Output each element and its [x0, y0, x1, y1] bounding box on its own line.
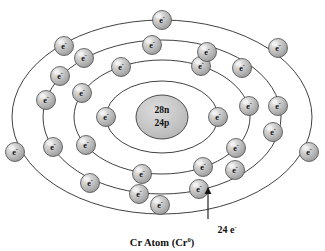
electron-shell3-22: e- — [51, 67, 70, 86]
electron-shell3-18: e- — [233, 59, 252, 78]
electron-shell2-9: e- — [112, 58, 131, 77]
electron-shell3-21: e- — [75, 49, 94, 68]
caption-main-text: Cr Atom (Cr — [130, 237, 188, 249]
electron-shell4-23: e- — [153, 11, 172, 30]
electron-shell3-12: e- — [81, 174, 100, 193]
bohr-model-svg: 28n 24p e-e-e-e-e-e-e-e-e-e-e-e-e-e-e-e-… — [0, 0, 325, 251]
annotation-label: 24 e- — [217, 223, 236, 235]
outer-shell-annotation: 24 e- — [205, 187, 237, 235]
atom-diagram-canvas: 28n 24p e-e-e-e-e-e-e-e-e-e-e-e-e-e-e-e-… — [0, 0, 325, 251]
electron-shell3-16: e- — [264, 123, 283, 142]
annotation-label-text: 24 e — [217, 224, 235, 235]
annotation-label-superscript: - — [234, 223, 236, 230]
electron-shell3-15: e- — [226, 161, 245, 180]
figure-caption: Cr Atom (Cr0) — [130, 236, 195, 249]
electron-shell2-4: e- — [133, 165, 152, 184]
electron-outer-3: e- — [300, 143, 319, 162]
electron-shell1-1: e- — [209, 108, 228, 127]
nucleus: 28n 24p — [136, 95, 188, 139]
electron-shell2-6: e- — [227, 139, 246, 158]
electron-shell3-20: e- — [143, 36, 162, 55]
caption-closing-paren: ) — [191, 237, 195, 249]
electron-shell2-3: e- — [77, 136, 96, 155]
electron-shell2-2: e- — [73, 84, 92, 103]
nucleus-sphere — [136, 95, 188, 139]
electron-outer-4: e- — [151, 196, 170, 215]
electron-shell3-19: e- — [198, 43, 217, 62]
electron-shell3-11: e- — [44, 138, 63, 157]
electron-shell2-5: e- — [194, 158, 213, 177]
electron-shell3-14: e- — [190, 180, 209, 199]
electron-outer-0: e- — [6, 143, 25, 162]
electron-shell1-0: e- — [97, 108, 116, 127]
electron-shell2-7: e- — [240, 97, 259, 116]
electron-outer-2: e- — [269, 39, 288, 58]
electron-shell3-10: e- — [37, 91, 56, 110]
nucleus-neutron-label: 28n — [155, 105, 171, 115]
electron-shell3-13: e- — [130, 185, 149, 204]
electron-outer-1: e- — [55, 37, 74, 56]
nucleus-proton-label: 24p — [155, 118, 170, 128]
electron-shell3-17: e- — [269, 97, 288, 116]
